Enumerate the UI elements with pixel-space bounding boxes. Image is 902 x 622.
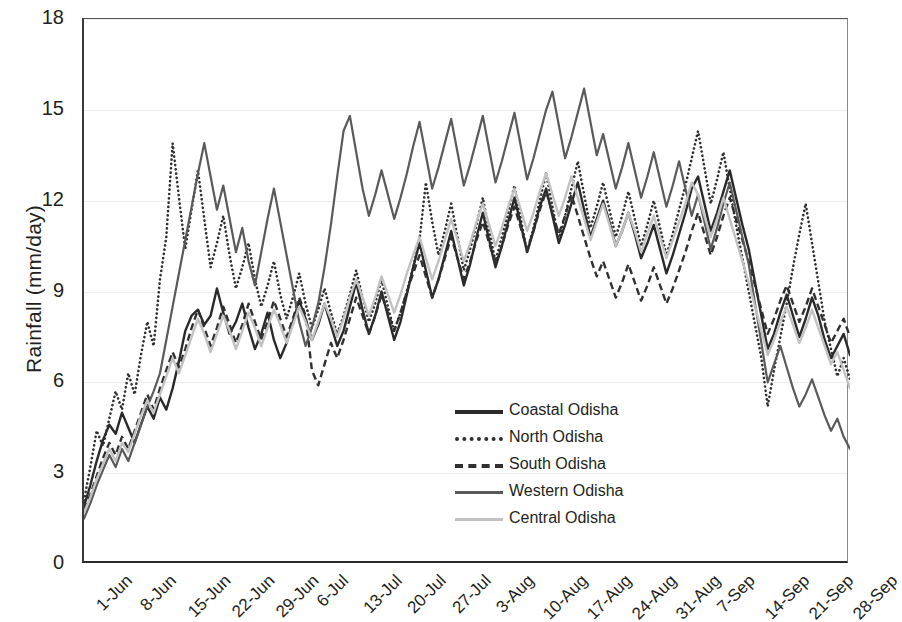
y-tick-label: 6 — [18, 370, 64, 390]
legend-item-label: South Odisha — [509, 455, 606, 473]
x-tick-label: 6-Jul — [312, 571, 352, 611]
legend-item[interactable]: Central Odisha — [455, 504, 623, 531]
x-tick-label: 24-Aug — [628, 571, 681, 622]
x-tick-label: 22-Jun — [228, 571, 279, 622]
legend-item-label: Central Odisha — [509, 509, 616, 527]
y-tick-label: 9 — [18, 280, 64, 300]
legend-item[interactable]: North Odisha — [455, 423, 623, 450]
x-tick-label: 7-Sep — [714, 571, 760, 617]
x-tick-label: 1-Jun — [92, 571, 136, 615]
x-tick-label: 29-Jun — [272, 571, 323, 622]
y-tick-label: 3 — [18, 461, 64, 481]
x-tick-label: 31-Aug — [672, 571, 725, 622]
legend-line-swatch-icon — [455, 430, 503, 444]
x-tick-label: 10-Aug — [539, 571, 592, 622]
legend-item[interactable]: Western Odisha — [455, 477, 623, 504]
x-tick-label: 20-Jul — [404, 571, 451, 618]
legend-item-label: Coastal Odisha — [509, 401, 618, 419]
y-tick-label: 12 — [18, 189, 64, 209]
x-tick-label: 21-Sep — [805, 571, 858, 622]
legend-line-swatch-icon — [455, 484, 503, 498]
x-tick-label: 14-Sep — [761, 571, 814, 622]
x-tick-label: 17-Aug — [584, 571, 637, 622]
y-axis-tick-labels: 0369121518 — [18, 0, 64, 622]
x-tick-label: 8-Jun — [137, 571, 181, 615]
x-tick-label: 28-Sep — [849, 571, 902, 622]
legend-item-label: Western Odisha — [509, 482, 623, 500]
legend-line-swatch-icon — [455, 403, 503, 417]
legend-item-label: North Odisha — [509, 428, 603, 446]
y-tick-label: 15 — [18, 98, 64, 118]
y-tick-label: 18 — [18, 7, 64, 27]
legend-item[interactable]: Coastal Odisha — [455, 396, 623, 423]
legend-item[interactable]: South Odisha — [455, 450, 623, 477]
legend-line-swatch-icon — [455, 511, 503, 525]
chart-legend: Coastal OdishaNorth OdishaSouth OdishaWe… — [455, 396, 623, 531]
legend-line-swatch-icon — [455, 457, 503, 471]
x-tick-label: 27-Jul — [448, 571, 495, 618]
x-tick-label: 3-Aug — [492, 571, 538, 617]
x-tick-label: 13-Jul — [359, 571, 406, 618]
x-tick-label: 15-Jun — [184, 571, 235, 622]
y-tick-label: 0 — [18, 552, 64, 572]
